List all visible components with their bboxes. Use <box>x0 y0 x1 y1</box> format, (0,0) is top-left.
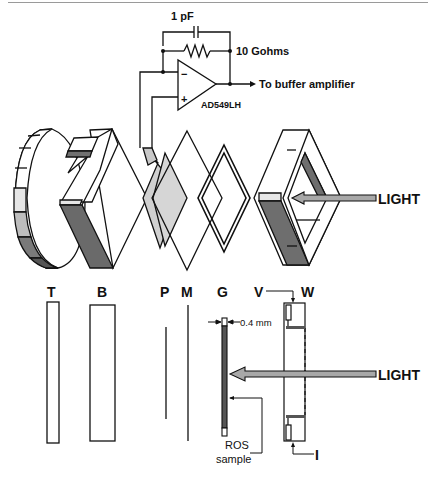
side-B <box>90 305 115 441</box>
electrometer-diagram: 1 pF 10 Gohms To buffer amplifier AD549L… <box>0 0 439 480</box>
v-arrow-icon <box>291 298 295 303</box>
ros-arrow-icon <box>229 396 234 400</box>
side-T <box>47 302 59 443</box>
ros-label-line2: sample <box>216 453 251 465</box>
opamp-minus-sign: − <box>181 68 187 80</box>
capacitor-label: 1 pF <box>171 10 194 22</box>
ros-label-line1: ROS <box>225 439 249 451</box>
output-arrow-icon <box>250 81 256 87</box>
label-I: I <box>315 447 319 463</box>
side-G <box>222 318 227 436</box>
label-T: T <box>47 284 56 300</box>
label-W: W <box>301 284 315 300</box>
label-B: B <box>97 284 107 300</box>
circuit-nodes <box>161 49 232 86</box>
label-G: G <box>217 284 228 300</box>
i-arrow-icon <box>291 442 295 447</box>
output-label: To buffer amplifier <box>259 78 355 90</box>
light-label-top: LIGHT <box>378 191 420 207</box>
light-label-side: LIGHT <box>378 367 420 383</box>
feedback-circuit <box>140 26 250 148</box>
label-P: P <box>160 284 169 300</box>
opamp-plus-sign: + <box>181 93 187 105</box>
i-pointer <box>293 446 314 454</box>
component-G-gasket <box>198 145 250 252</box>
component-P-electrode <box>143 148 187 248</box>
thickness-label: 0.4 mm <box>240 317 272 328</box>
resistor-label: 10 Gohms <box>236 45 289 57</box>
opamp-label: AD549LH <box>201 100 241 110</box>
label-V: V <box>254 284 264 300</box>
label-M: M <box>181 284 193 300</box>
v-pointer <box>266 291 293 300</box>
